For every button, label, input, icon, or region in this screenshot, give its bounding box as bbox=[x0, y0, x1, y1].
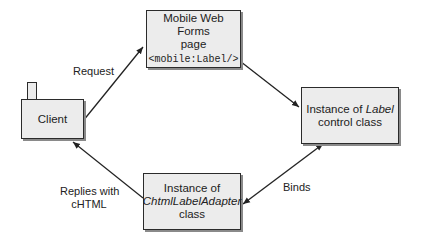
replies-label-line2: cHTML bbox=[60, 198, 118, 211]
label-control-prefix: Instance of bbox=[306, 103, 365, 115]
client-node: Client bbox=[21, 99, 84, 139]
binds-arrow bbox=[243, 144, 323, 204]
binds-label: Binds bbox=[283, 181, 311, 194]
adapter-class-name: ChtmlLabelAdapter bbox=[143, 195, 241, 208]
label-control-node: Instance of Label control class bbox=[301, 87, 399, 144]
label-control-line1: Instance of Label bbox=[306, 103, 394, 116]
page-title-line1: Mobile Web Forms bbox=[147, 12, 240, 38]
request-arrow bbox=[83, 47, 143, 121]
page-title-line2: page bbox=[181, 38, 207, 51]
adapter-node: Instance of ChtmlLabelAdapter class bbox=[143, 173, 241, 230]
adapter-line1: Instance of bbox=[164, 182, 220, 195]
request-label: Request bbox=[73, 65, 114, 78]
client-label: Client bbox=[38, 113, 67, 126]
label-control-class-name: Label bbox=[366, 103, 394, 115]
page-code: <mobile:Label/> bbox=[148, 53, 238, 66]
client-antenna bbox=[27, 82, 37, 100]
page-to-control-arrow bbox=[236, 58, 299, 107]
replies-label: Replies with cHTML bbox=[60, 185, 118, 211]
adapter-line3: class bbox=[179, 208, 205, 221]
replies-label-line1: Replies with bbox=[60, 185, 118, 198]
label-control-line2: control class bbox=[318, 116, 382, 129]
mobile-web-forms-page-node: Mobile Web Forms page <mobile:Label/> bbox=[146, 10, 241, 68]
